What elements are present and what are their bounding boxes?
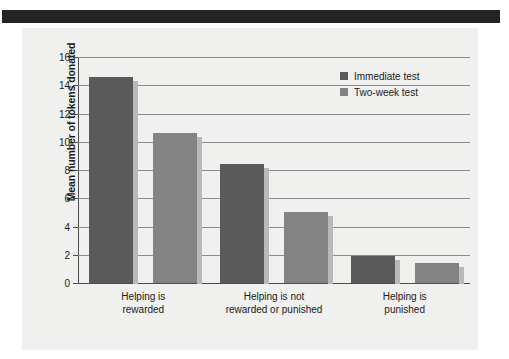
bar-shadow: [197, 137, 202, 284]
chart-legend: Immediate testTwo-week test: [340, 69, 460, 101]
y-tick-mark-12: [73, 114, 78, 115]
y-tick-label-4: 4: [64, 221, 70, 232]
figure-panel: Mean number of tokens donated 0246810121…: [22, 28, 478, 350]
y-tick-mark-0: [73, 283, 78, 284]
y-tick-mark-6: [73, 198, 78, 199]
bar-shadow: [328, 216, 333, 284]
legend-label: Two-week test: [354, 87, 418, 98]
y-tick-label-16: 16: [59, 52, 70, 63]
y-tick-mark-14: [73, 85, 78, 86]
bar-immediate-group-3: [351, 256, 395, 283]
x-axis-label-group-3: Helping ispunished: [315, 291, 495, 316]
bar-shadow: [133, 81, 138, 284]
bar-body: [89, 77, 133, 283]
legend-entry-immediate: Immediate test: [340, 69, 460, 83]
bar-immediate-group-2: [220, 164, 264, 283]
bar-shadow: [459, 267, 464, 284]
y-tick-label-14: 14: [59, 80, 70, 91]
y-tick-label-0: 0: [64, 278, 70, 289]
y-tick-mark-4: [73, 227, 78, 228]
bar-shadow: [395, 260, 400, 284]
y-tick-mark-10: [73, 142, 78, 143]
bar-body: [284, 212, 328, 283]
bar-twoweek-group-2: [284, 212, 328, 283]
bar-twoweek-group-1: [153, 133, 197, 283]
page-top-rule: [2, 10, 500, 23]
bar-body: [153, 133, 197, 283]
y-tick-label-8: 8: [64, 165, 70, 176]
gridline-16: [78, 57, 470, 58]
y-axis-title: Mean number of tokens donated: [65, 42, 77, 202]
y-tick-label-12: 12: [59, 108, 70, 119]
legend-label: Immediate test: [354, 71, 420, 82]
legend-swatch-icon: [340, 88, 348, 96]
x-axis-label-line: Helping is: [315, 291, 495, 304]
bar-immediate-group-1: [89, 77, 133, 283]
x-axis-label-line: punished: [315, 304, 495, 317]
y-tick-mark-16: [73, 57, 78, 58]
bar-body: [351, 256, 395, 283]
y-tick-label-6: 6: [64, 193, 70, 204]
bar-body: [415, 263, 459, 283]
legend-swatch-icon: [340, 72, 348, 80]
y-tick-label-10: 10: [59, 136, 70, 147]
bar-shadow: [264, 168, 269, 284]
y-tick-mark-2: [73, 255, 78, 256]
legend-entry-twoweek: Two-week test: [340, 85, 460, 99]
bar-twoweek-group-3: [415, 263, 459, 283]
y-tick-label-2: 2: [64, 249, 70, 260]
y-tick-mark-8: [73, 170, 78, 171]
bar-body: [220, 164, 264, 283]
